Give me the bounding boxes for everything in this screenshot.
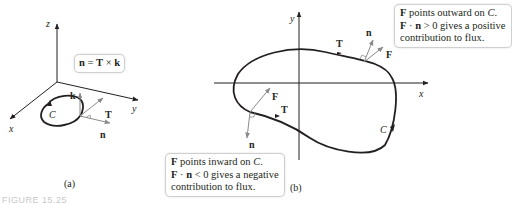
outward-note-line1: F points outward on C.	[400, 7, 506, 20]
inward-note-line2: F · n < 0 gives a negative	[171, 169, 279, 182]
vector-t-label-a: T	[105, 109, 112, 120]
inward-note-line3: contribution to flux.	[171, 181, 279, 194]
curve-c-label-b: C	[380, 124, 387, 135]
curve-c-a	[41, 96, 83, 126]
caption-a: (a)	[64, 178, 75, 189]
outward-note: F points outward on C. F · n > 0 gives a…	[394, 4, 512, 48]
curve-c-label-a: C	[49, 109, 56, 120]
axis-z-label: z	[45, 18, 50, 29]
vector-n-left-label: n	[249, 139, 255, 150]
axis-y-label-b: y	[289, 13, 295, 24]
vector-f-left	[250, 88, 270, 112]
vector-n-top-label: n	[366, 27, 372, 38]
formula-times: ×	[103, 57, 114, 68]
vector-f-top-label: F	[386, 49, 392, 60]
axis-y-label: y	[131, 103, 137, 114]
vector-n-label-a: n	[100, 129, 106, 140]
caption-b: (b)	[290, 182, 302, 193]
outward-note-line2: F · n > 0 gives a positive	[400, 20, 506, 33]
vector-f-left-label: F	[272, 91, 278, 102]
inward-note: F points inward on C. F · n < 0 gives a …	[165, 153, 285, 197]
outward-note-line3: contribution to flux.	[400, 32, 506, 45]
vector-n-left	[247, 112, 250, 138]
figure-label: FIGURE 15.25	[2, 195, 67, 203]
formula-t: T	[96, 57, 103, 68]
inward-note-line1: F points inward on C.	[171, 156, 279, 169]
curve-c-b	[234, 49, 396, 152]
vector-t-top-label: T	[336, 38, 343, 49]
axis-x-label: x	[8, 123, 14, 134]
vector-t-left-label: T	[281, 104, 288, 115]
axis-x-label-b: x	[418, 88, 424, 99]
vector-k-label-a: k	[70, 90, 76, 101]
formula-k: k	[114, 57, 120, 68]
formula-box: n = T × k	[74, 54, 125, 73]
formula-eq: =	[85, 57, 96, 68]
tangent-marker-left	[275, 114, 280, 118]
